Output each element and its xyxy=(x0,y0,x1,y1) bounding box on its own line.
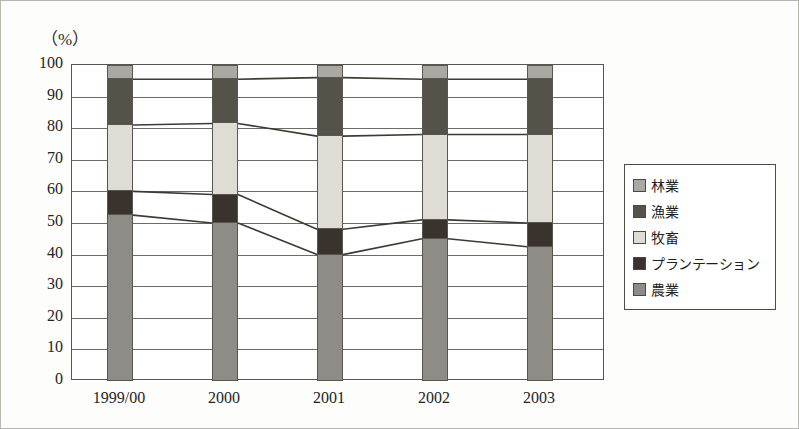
connector-line xyxy=(133,215,212,223)
bar-2001 xyxy=(317,65,343,381)
bar-2003 xyxy=(527,65,553,381)
plot-area xyxy=(71,64,604,380)
bar-segment xyxy=(107,65,133,79)
bar-segment xyxy=(422,135,448,220)
bar-segment xyxy=(107,191,133,215)
bar-1999-00 xyxy=(107,65,133,381)
y-tick-label: 50 xyxy=(19,212,63,230)
bar-segment xyxy=(212,195,238,223)
bar-segment xyxy=(422,220,448,239)
legend-item-4[interactable]: 農業 xyxy=(633,276,769,302)
bar-segment xyxy=(212,79,238,123)
legend: 林業漁業牧畜プランテーション農業 xyxy=(624,164,776,310)
legend-swatch-icon xyxy=(633,283,646,296)
x-tick-label: 2000 xyxy=(169,389,279,407)
legend-item-3[interactable]: プランテーション xyxy=(633,250,769,276)
legend-swatch-icon xyxy=(633,231,646,244)
connector-line xyxy=(343,78,422,80)
y-tick-label: 80 xyxy=(19,117,63,135)
bar-segment xyxy=(527,65,553,79)
y-axis-unit-label: （%） xyxy=(41,25,89,50)
connector-line xyxy=(343,220,422,229)
bar-segment xyxy=(212,65,238,79)
legend-label: 農業 xyxy=(651,279,678,299)
bar-segment xyxy=(317,78,343,136)
legend-item-2[interactable]: 牧畜 xyxy=(633,224,769,250)
chart-page: （%） 1009080706050403020100 1999/00200020… xyxy=(0,0,799,429)
connector-line xyxy=(343,135,422,137)
bar-segment xyxy=(212,223,238,381)
legend-item-0[interactable]: 林業 xyxy=(633,172,769,198)
legend-swatch-icon xyxy=(633,179,646,192)
legend-label: 漁業 xyxy=(651,201,678,221)
bar-segment xyxy=(107,125,133,191)
connector-line xyxy=(343,239,422,255)
bar-segment xyxy=(422,65,448,79)
legend-swatch-icon xyxy=(633,257,646,270)
bar-segment xyxy=(212,123,238,194)
connector-line xyxy=(448,239,527,247)
connector-line xyxy=(133,123,212,125)
bar-segment xyxy=(317,229,343,254)
connector-line xyxy=(238,195,317,230)
bar-2002 xyxy=(422,65,448,381)
x-tick-label: 2003 xyxy=(484,389,594,407)
y-tick-label: 70 xyxy=(19,149,63,167)
x-tick-label: 1999/00 xyxy=(64,389,174,407)
y-tick-label: 0 xyxy=(19,370,63,388)
bar-segment xyxy=(317,255,343,381)
legend-label: 牧畜 xyxy=(651,227,678,247)
bar-segment xyxy=(422,79,448,134)
x-tick-label: 2002 xyxy=(379,389,489,407)
bar-segment xyxy=(107,79,133,125)
y-tick-label: 20 xyxy=(19,307,63,325)
y-tick-label: 60 xyxy=(19,180,63,198)
y-tick-label: 10 xyxy=(19,338,63,356)
bar-2000 xyxy=(212,65,238,381)
bar-segment xyxy=(107,215,133,381)
connector-line xyxy=(238,223,317,255)
y-tick-label: 100 xyxy=(19,54,63,72)
legend-item-1[interactable]: 漁業 xyxy=(633,198,769,224)
y-tick-label: 40 xyxy=(19,244,63,262)
bar-segment xyxy=(527,79,553,134)
y-tick-label: 90 xyxy=(19,86,63,104)
legend-label: プランテーション xyxy=(651,253,759,273)
bar-segment xyxy=(317,136,343,229)
bar-segment xyxy=(422,239,448,381)
x-tick-label: 2001 xyxy=(274,389,384,407)
legend-label: 林業 xyxy=(651,175,678,195)
bar-segment xyxy=(527,247,553,381)
connector-line xyxy=(238,123,317,136)
bar-segment xyxy=(527,135,553,223)
y-tick-label: 30 xyxy=(19,275,63,293)
legend-swatch-icon xyxy=(633,205,646,218)
connector-line xyxy=(238,78,317,80)
bar-segment xyxy=(317,65,343,78)
bar-segment xyxy=(527,223,553,247)
